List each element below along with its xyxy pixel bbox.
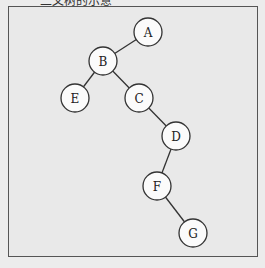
tree-nodes: ABECDFG <box>61 18 207 247</box>
node-b: B <box>89 47 117 75</box>
node-label: G <box>188 227 198 241</box>
node-f: F <box>143 172 171 200</box>
node-label: F <box>153 180 161 194</box>
node-label: E <box>71 92 80 106</box>
node-d: D <box>162 122 190 150</box>
node-label: C <box>134 92 143 106</box>
node-g: G <box>179 219 207 247</box>
node-e: E <box>61 84 89 112</box>
node-label: D <box>171 130 181 144</box>
node-c: C <box>125 84 153 112</box>
node-label: B <box>99 55 108 69</box>
node-label: A <box>143 26 153 40</box>
binary-tree-diagram: ABECDFG <box>0 0 265 268</box>
node-a: A <box>134 18 162 46</box>
